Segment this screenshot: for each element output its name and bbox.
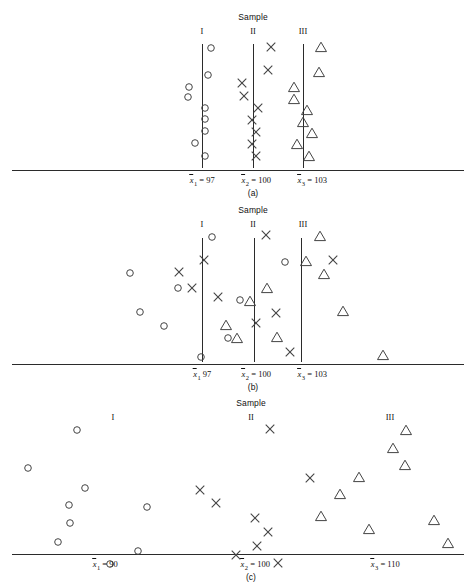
data-point-triangle: [271, 331, 284, 343]
data-point-circle: [73, 426, 82, 435]
data-point-triangle: [244, 295, 257, 307]
data-point-triangle: [220, 319, 233, 331]
data-point-circle: [201, 104, 210, 113]
data-point-triangle: [442, 537, 455, 549]
data-point-circle: [184, 93, 193, 102]
data-point-triangle: [288, 81, 301, 93]
data-point-circle: [54, 538, 63, 547]
data-point-x-cross: [187, 283, 198, 294]
column-header-iii: III: [386, 412, 395, 422]
data-point-triangle: [377, 349, 390, 361]
panel-caption: (c): [246, 572, 256, 582]
data-point-circle: [136, 308, 145, 317]
data-point-x-cross: [247, 139, 258, 150]
data-point-circle: [197, 353, 206, 362]
data-point-triangle: [301, 104, 314, 116]
data-point-triangle: [231, 332, 244, 344]
column-header-i: I: [201, 26, 204, 36]
data-point-triangle: [314, 230, 327, 242]
sample-title-a: Sample: [238, 12, 267, 22]
mean-label-3: x3 = 103: [297, 175, 327, 187]
sample-title-c: Sample: [236, 398, 265, 408]
data-point-triangle: [288, 93, 301, 105]
data-point-circle: [24, 464, 33, 473]
data-point-triangle: [303, 150, 316, 162]
mean-label-3: x3 = 103: [297, 369, 327, 381]
plot-layer: SampleIIIIIIx1 = 97x2 = 100x3 = 103(a)Sa…: [0, 0, 476, 582]
data-point-x-cross: [195, 485, 206, 496]
data-point-x-cross: [213, 292, 224, 303]
data-point-x-cross: [251, 318, 262, 329]
data-point-triangle: [300, 255, 313, 267]
data-point-x-cross: [253, 103, 264, 114]
data-point-x-cross: [261, 230, 272, 241]
data-point-triangle: [337, 305, 350, 317]
mean-label-2: x2 = 100: [241, 369, 271, 381]
data-point-triangle: [387, 442, 400, 454]
panel-caption: (a): [248, 188, 258, 198]
data-point-x-cross: [263, 527, 274, 538]
column-header-ii: II: [248, 412, 254, 422]
data-point-x-cross: [247, 115, 258, 126]
data-point-x-cross: [265, 424, 276, 435]
data-point-triangle: [315, 41, 328, 53]
column-header-iii: III: [299, 26, 308, 36]
mean-label-2: x2 = 100: [241, 175, 271, 187]
data-point-circle: [65, 501, 74, 510]
data-point-circle: [207, 44, 216, 53]
mean-label-1: x1 97: [193, 369, 212, 381]
data-point-x-cross: [263, 65, 274, 76]
mean-label-1: x1 = 97: [189, 175, 215, 187]
data-point-x-cross: [211, 498, 222, 509]
data-point-circle: [134, 547, 143, 556]
data-point-circle: [204, 71, 213, 80]
data-point-x-cross: [239, 91, 250, 102]
data-point-x-cross: [252, 541, 263, 552]
data-point-circle: [66, 519, 75, 528]
data-point-x-cross: [251, 127, 262, 138]
sample-title-b: Sample: [238, 205, 267, 215]
data-point-x-cross: [271, 308, 282, 319]
data-point-x-cross: [273, 558, 284, 569]
data-point-x-cross: [250, 513, 261, 524]
data-point-x-cross: [251, 151, 262, 162]
mean-label-1: x1 = 90: [92, 559, 118, 571]
column-header-ii: II: [250, 26, 256, 36]
data-point-x-cross: [199, 255, 210, 266]
data-point-triangle: [313, 66, 326, 78]
panel-caption: (b): [248, 382, 258, 392]
data-point-x-cross: [237, 78, 248, 89]
data-point-triangle: [400, 424, 413, 436]
data-point-triangle: [334, 488, 347, 500]
data-point-circle: [201, 127, 210, 136]
data-point-x-cross: [266, 42, 277, 53]
data-point-circle: [126, 269, 135, 278]
data-point-triangle: [315, 510, 328, 522]
data-point-circle: [208, 233, 217, 242]
data-point-circle: [281, 258, 290, 267]
column-header-ii: II: [250, 219, 256, 229]
data-point-triangle: [428, 514, 441, 526]
data-point-circle: [174, 284, 183, 293]
baseline-axis: [12, 364, 464, 365]
data-point-circle: [201, 152, 210, 161]
column-header-i: I: [201, 219, 204, 229]
data-point-triangle: [318, 268, 331, 280]
data-point-triangle: [306, 127, 319, 139]
data-point-circle: [81, 484, 90, 493]
statistics-figure: SampleIIIIIIx1 = 97x2 = 100x3 = 103(a)Sa…: [0, 0, 476, 582]
data-point-x-cross: [328, 255, 339, 266]
data-point-circle: [201, 115, 210, 124]
data-point-triangle: [363, 523, 376, 535]
data-point-triangle: [261, 282, 274, 294]
mean-label-3: x3 = 110: [370, 559, 400, 571]
data-point-x-cross: [174, 267, 185, 278]
data-point-x-cross: [285, 347, 296, 358]
data-point-triangle: [291, 138, 304, 150]
data-point-circle: [143, 503, 152, 512]
column-header-iii: III: [299, 219, 308, 229]
data-point-triangle: [353, 471, 366, 483]
baseline-axis: [12, 170, 464, 171]
data-point-triangle: [399, 459, 412, 471]
mean-label-2: x2 = 100: [240, 559, 270, 571]
